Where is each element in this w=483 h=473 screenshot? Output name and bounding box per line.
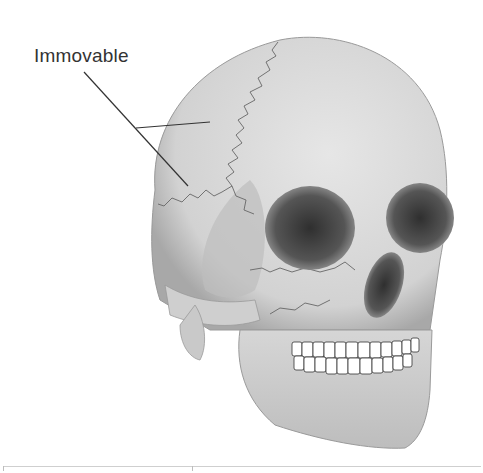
right-orbit bbox=[386, 183, 454, 253]
rule-tick bbox=[192, 466, 193, 471]
teeth bbox=[292, 338, 419, 374]
rule-tick bbox=[3, 466, 4, 471]
left-orbit bbox=[265, 186, 355, 270]
bottom-rule bbox=[3, 466, 481, 467]
skull-illustration bbox=[0, 0, 483, 473]
